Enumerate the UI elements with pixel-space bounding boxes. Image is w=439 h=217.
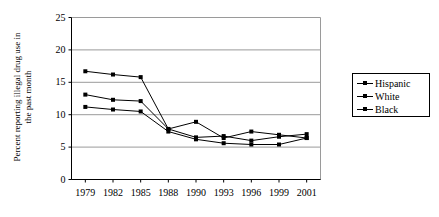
data-point-marker bbox=[83, 93, 87, 97]
data-point-marker bbox=[222, 136, 226, 140]
data-point-marker bbox=[277, 133, 281, 137]
series-line bbox=[85, 71, 306, 140]
legend-label: Hispanic bbox=[373, 78, 411, 89]
legend-marker-icon bbox=[357, 78, 373, 89]
data-point-marker bbox=[111, 73, 115, 77]
y-tick-label: 20 bbox=[34, 45, 66, 55]
chart-figure: Percent reporting illegal drug use in th… bbox=[0, 0, 439, 217]
legend-item-white: White bbox=[357, 90, 425, 103]
data-point-marker bbox=[111, 108, 115, 112]
legend-label: Black bbox=[373, 104, 398, 115]
data-point-marker bbox=[139, 75, 143, 79]
data-point-marker bbox=[222, 141, 226, 145]
data-point-marker bbox=[277, 143, 281, 147]
y-tick-label: 15 bbox=[34, 77, 66, 87]
series-line bbox=[85, 95, 306, 138]
data-point-marker bbox=[194, 120, 198, 124]
data-point-marker bbox=[305, 136, 309, 140]
y-tick-label: 0 bbox=[34, 175, 66, 185]
data-point-marker bbox=[305, 132, 309, 136]
data-point-marker bbox=[249, 139, 253, 143]
data-point-marker bbox=[139, 99, 143, 103]
data-point-marker bbox=[83, 69, 87, 73]
data-point-marker bbox=[83, 105, 87, 109]
data-point-marker bbox=[139, 109, 143, 113]
y-tick-label: 25 bbox=[34, 13, 66, 23]
x-tick-label: 2001 bbox=[289, 188, 325, 198]
data-point-marker bbox=[194, 137, 198, 141]
y-tick-label: 5 bbox=[34, 142, 66, 152]
legend-marker-icon bbox=[357, 104, 373, 115]
y-tick-label: 10 bbox=[34, 110, 66, 120]
legend-label: White bbox=[373, 91, 399, 102]
chart-legend: Hispanic White Black bbox=[352, 73, 430, 117]
data-point-marker bbox=[111, 98, 115, 102]
legend-item-black: Black bbox=[357, 103, 425, 116]
data-point-marker bbox=[249, 130, 253, 134]
legend-item-hispanic: Hispanic bbox=[357, 77, 425, 90]
data-point-marker bbox=[166, 130, 170, 134]
legend-marker-icon bbox=[357, 91, 373, 102]
data-point-marker bbox=[249, 143, 253, 147]
